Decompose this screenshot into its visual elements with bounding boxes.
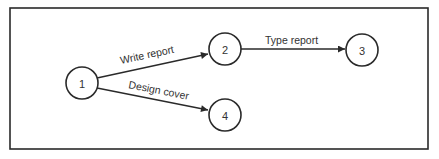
- node-label-1: 1: [79, 78, 85, 90]
- edge-2-3: Type report: [241, 34, 345, 49]
- node-label-4: 4: [222, 110, 228, 122]
- node-3: 3: [346, 34, 378, 66]
- edge-label-design-cover: Design cover: [128, 78, 191, 102]
- edge-label-type-report: Type report: [265, 34, 318, 46]
- node-label-2: 2: [222, 44, 228, 56]
- node-4: 4: [209, 99, 241, 131]
- edge-1-2: Write report: [97, 43, 208, 78]
- node-2: 2: [209, 33, 241, 65]
- node-1: 1: [66, 67, 98, 99]
- network-diagram: Write report Type report Design cover 1 …: [0, 0, 439, 159]
- edge-1-4: Design cover: [97, 78, 208, 110]
- node-label-3: 3: [359, 45, 365, 57]
